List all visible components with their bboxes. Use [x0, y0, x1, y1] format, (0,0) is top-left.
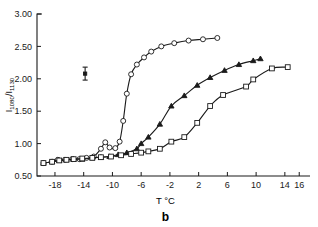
marker-open-circle — [142, 55, 147, 60]
marker-open-square — [57, 158, 62, 163]
marker-open-square — [99, 155, 104, 160]
marker-open-square — [285, 65, 290, 70]
y-tick-label: 1.50 — [14, 106, 32, 116]
marker-open-circle — [98, 146, 103, 151]
marker-open-square — [251, 77, 256, 82]
marker-open-square — [41, 161, 46, 166]
x-tick-label: 14 — [280, 180, 290, 190]
marker-open-square — [71, 157, 76, 162]
x-tick-label: -18 — [48, 180, 61, 190]
marker-open-square — [129, 152, 134, 157]
marker-open-circle — [134, 62, 139, 67]
x-tick-label: -2 — [166, 180, 174, 190]
marker-open-circle — [215, 35, 220, 40]
marker-open-circle — [159, 44, 164, 49]
marker-open-circle — [107, 145, 112, 150]
marker-open-square — [109, 154, 114, 159]
marker-filled-triangle — [195, 83, 200, 88]
marker-open-square — [139, 150, 144, 155]
marker-open-square — [50, 159, 55, 164]
x-tick-label: 2 — [196, 180, 201, 190]
marker-open-square — [146, 149, 151, 154]
marker-open-circle — [149, 49, 154, 54]
marker-open-square — [157, 146, 162, 151]
data-series — [41, 35, 290, 165]
marker-open-square — [208, 104, 213, 109]
marker-open-square — [244, 84, 249, 89]
marker-open-circle — [124, 91, 129, 96]
x-tick-label: 10 — [251, 180, 261, 190]
marker-open-square — [64, 157, 69, 162]
marker-open-circle — [113, 146, 118, 151]
series-line-middle-sigmoid — [43, 59, 260, 163]
series-upper-sigmoid — [41, 35, 220, 165]
error-bar — [83, 67, 88, 80]
marker-open-circle — [103, 140, 108, 145]
x-tick-label: 6 — [225, 180, 230, 190]
y-tick-label: 0.50 — [14, 171, 32, 181]
annotations — [83, 67, 88, 80]
x-tick-label: -10 — [106, 180, 119, 190]
marker-open-square — [90, 155, 95, 160]
chart-canvas: 0.501.001.502.002.503.00-18-14-10-6-2261… — [0, 0, 318, 227]
y-tick-label: 2.00 — [14, 74, 32, 84]
y-axis-title: I1080/I1130 — [4, 77, 15, 112]
chart-figure: 0.501.001.502.002.503.00-18-14-10-6-2261… — [0, 0, 318, 227]
x-tick-label: -14 — [77, 180, 90, 190]
y-axis-title-text: I1080/I1130 — [4, 77, 15, 112]
marker-open-circle — [200, 37, 205, 42]
marker-open-circle — [172, 41, 177, 46]
marker-filled-triangle — [258, 56, 263, 61]
marker-open-square — [270, 66, 275, 71]
x-tick-label: -6 — [137, 180, 145, 190]
series-line-upper-sigmoid — [43, 38, 217, 163]
panel-letter: b — [162, 210, 169, 224]
marker-open-square — [169, 139, 174, 144]
marker-open-circle — [121, 118, 126, 123]
series-middle-sigmoid — [41, 56, 263, 165]
marker-open-square — [195, 120, 200, 125]
marker-open-circle — [186, 38, 191, 43]
marker-open-circle — [129, 72, 134, 77]
x-tick-label: 16 — [294, 180, 304, 190]
marker-open-circle — [117, 139, 122, 144]
marker-open-square — [182, 135, 187, 140]
marker-filled-triangle — [207, 75, 212, 80]
axis-spines — [37, 14, 310, 176]
x-axis-title: T °C — [156, 195, 175, 206]
y-tick-label: 1.00 — [14, 139, 32, 149]
y-tick-label: 2.50 — [14, 42, 32, 52]
y-tick-label: 3.00 — [14, 9, 32, 19]
marker-open-square — [119, 153, 124, 158]
error-bar-point — [84, 72, 87, 75]
marker-open-square — [221, 93, 226, 98]
marker-open-square — [80, 156, 85, 161]
